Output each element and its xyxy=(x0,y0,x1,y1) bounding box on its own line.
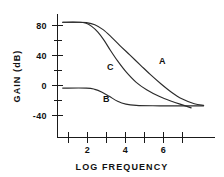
y-tick-label-80: 80 xyxy=(36,21,47,31)
curve-label-c: C xyxy=(107,62,114,72)
x-tick-label-4: 4 xyxy=(123,145,128,155)
y-axis-title: GAIN (dB) xyxy=(12,50,22,103)
x-tick-label-6: 6 xyxy=(161,145,166,155)
x-tick-label-2: 2 xyxy=(85,145,90,155)
y-tick-label-minus40: -40 xyxy=(33,111,47,121)
curve-c xyxy=(63,22,191,108)
chart-figure: 80 40 0 -40 2 4 6 A B C LOG FREQUENCY GA… xyxy=(0,0,224,177)
curve-label-b: B xyxy=(103,94,110,104)
curve-a xyxy=(63,22,204,105)
y-tick-label-0: 0 xyxy=(42,81,47,91)
x-tick-labels: 2 4 6 xyxy=(85,145,166,155)
y-axis xyxy=(52,14,63,138)
x-axis xyxy=(58,132,216,143)
curves xyxy=(63,22,204,108)
gain-vs-log-frequency-plot: 80 40 0 -40 2 4 6 A B C LOG FREQUENCY GA… xyxy=(0,0,224,177)
x-axis-title: LOG FREQUENCY xyxy=(76,162,169,172)
curve-label-a: A xyxy=(159,56,166,66)
curve-b xyxy=(63,88,204,106)
y-tick-labels: 80 40 0 -40 xyxy=(33,21,47,121)
y-tick-label-40: 40 xyxy=(36,51,47,61)
